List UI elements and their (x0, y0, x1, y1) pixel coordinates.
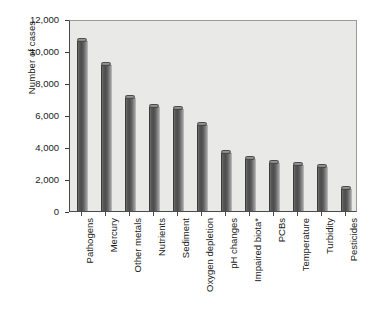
bar (77, 41, 88, 211)
x-tick-label: Impaired biota* (253, 218, 263, 282)
bar (173, 109, 184, 211)
x-tick-mark (105, 212, 106, 216)
x-tick-mark (297, 212, 298, 216)
x-tick-label: Pathogens (85, 218, 95, 263)
x-tick-mark (273, 212, 274, 216)
x-tick-mark (153, 212, 154, 216)
bar (101, 65, 112, 211)
bar (341, 189, 352, 211)
x-tick-label: pH changes (229, 218, 239, 269)
chart-figure: Number of cases 02,0004,0006,0008,00010,… (0, 0, 375, 323)
y-tick-label: 0 (54, 207, 59, 217)
x-axis-tick-labels: PathogensMercuryOther metalsNutrientsSed… (69, 212, 357, 323)
x-tick-mark (177, 212, 178, 216)
y-tick-label: 6,000 (35, 111, 59, 121)
bar-cap (173, 106, 183, 110)
bar (197, 125, 208, 211)
x-tick-mark (225, 212, 226, 216)
x-tick-label: Nutrients (157, 218, 167, 256)
x-tick-mark (129, 212, 130, 216)
bar-cap (101, 62, 111, 66)
x-tick-label: Temperature (301, 218, 311, 271)
y-tick-label: 10,000 (30, 47, 59, 57)
bar-cap (149, 104, 159, 108)
bar-cap (197, 122, 207, 126)
bar (293, 165, 304, 211)
bar (125, 98, 136, 211)
x-tick-label: Other metals (133, 218, 143, 272)
x-tick-mark (201, 212, 202, 216)
bar-cap (341, 186, 351, 190)
x-tick-label: Pesticides (349, 218, 359, 261)
y-tick-label: 2,000 (35, 175, 59, 185)
bar-cap (293, 162, 303, 166)
x-tick-mark (81, 212, 82, 216)
bar (269, 163, 280, 211)
bar-cap (221, 150, 231, 154)
bar (149, 107, 160, 211)
bar (317, 167, 328, 211)
x-tick-label: Mercury (109, 218, 119, 252)
y-tick-label: 12,000 (30, 15, 59, 25)
plot-area (69, 20, 357, 212)
bar (221, 153, 232, 211)
bar-cap (245, 156, 255, 160)
bars-container (70, 21, 356, 211)
y-tick-label: 4,000 (35, 143, 59, 153)
x-tick-mark (249, 212, 250, 216)
bar (245, 159, 256, 211)
x-tick-label: PCBs (277, 218, 287, 242)
bar-cap (317, 164, 327, 168)
y-axis-tick-labels: 02,0004,0006,0008,00010,00012,000 (0, 0, 64, 323)
bar-cap (77, 38, 87, 42)
bar-cap (125, 95, 135, 99)
x-tick-label: Sediment (181, 218, 191, 258)
x-tick-mark (321, 212, 322, 216)
y-tick-label: 8,000 (35, 79, 59, 89)
x-tick-label: Turbidity (325, 218, 335, 254)
bar-cap (269, 160, 279, 164)
x-tick-mark (345, 212, 346, 216)
x-tick-label: Oxygen depletion (205, 218, 215, 292)
